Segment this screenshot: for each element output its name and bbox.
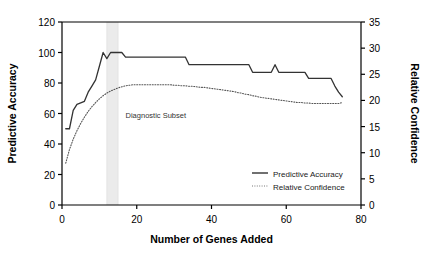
y-axis-left-tick-label: 80 <box>44 78 56 89</box>
x-axis-title: Number of Genes Added <box>150 233 273 245</box>
y-axis-right-tick-label: 20 <box>369 95 381 106</box>
chart-container: 02040608010012005101520253035020406080Di… <box>0 0 427 255</box>
predictive-accuracy-chart: 02040608010012005101520253035020406080Di… <box>0 0 427 255</box>
y-axis-left-title: Predictive Accuracy <box>6 63 18 163</box>
legend-label-predictive-accuracy: Predictive Accuracy <box>273 170 343 179</box>
y-axis-left-tick-label: 100 <box>38 48 55 59</box>
y-axis-right-tick-label: 25 <box>369 69 381 80</box>
y-axis-right-tick-label: 15 <box>369 122 381 133</box>
y-axis-left-tick-label: 40 <box>44 139 56 150</box>
y-axis-right-tick-label: 5 <box>369 174 375 185</box>
x-axis-tick-label: 20 <box>131 214 143 225</box>
y-axis-right-tick-label: 35 <box>369 17 381 28</box>
y-axis-left-tick-label: 120 <box>38 17 55 28</box>
y-axis-right-tick-label: 0 <box>369 200 375 211</box>
legend-label-relative-confidence: Relative Confidence <box>273 183 345 192</box>
y-axis-left-tick-label: 0 <box>49 200 55 211</box>
y-axis-right-tick-label: 10 <box>369 148 381 159</box>
x-axis-tick-label: 0 <box>59 214 65 225</box>
y-axis-right-title: Relative Confidence <box>409 63 421 164</box>
y-axis-left-tick-label: 60 <box>44 109 56 120</box>
y-axis-right-tick-label: 30 <box>369 43 381 54</box>
diagnostic-subset-band <box>107 22 118 205</box>
diagnostic-subset-annotation: Diagnostic Subset <box>126 111 187 120</box>
x-axis-tick-label: 80 <box>355 214 367 225</box>
y-axis-left-tick-label: 20 <box>44 170 56 181</box>
x-axis-tick-label: 40 <box>206 214 218 225</box>
x-axis-tick-label: 60 <box>281 214 293 225</box>
